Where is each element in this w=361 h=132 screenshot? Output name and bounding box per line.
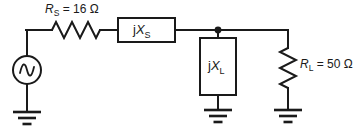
load-resistance-label: RL = 50 Ω	[300, 58, 353, 73]
ground-load	[274, 110, 302, 122]
source-resistance-symbol: R	[45, 2, 54, 16]
load-resistance-symbol: R	[300, 57, 309, 71]
load-resistance-value: 50	[327, 57, 340, 71]
resistor-zigzag-vertical	[280, 48, 296, 88]
ac-voltage-source[interactable]	[13, 30, 41, 112]
load-resistor[interactable]	[280, 48, 296, 88]
ohm-unit-icon: Ω	[344, 57, 353, 71]
circuit-diagram: RS = 16 Ω RL = 50 Ω jXS jXL	[0, 0, 361, 132]
load-resistance-equals: =	[313, 57, 327, 71]
ohm-unit-icon: Ω	[90, 2, 99, 16]
ground-shunt	[204, 110, 232, 122]
source-resistance-value: 16	[73, 2, 86, 16]
series-reactance-label: jXS	[133, 23, 151, 40]
series-reactance-subscript: S	[145, 30, 151, 40]
source-resistor[interactable]	[52, 22, 100, 38]
resistor-zigzag-horizontal	[52, 22, 100, 38]
source-resistance-label: RS = 16 Ω	[45, 3, 99, 18]
shunt-reactance-subscript: L	[220, 66, 225, 76]
series-reactance-symbol: X	[136, 22, 145, 37]
ground-source	[13, 112, 41, 124]
source-resistance-equals: =	[59, 2, 73, 16]
shunt-reactance-symbol: X	[211, 58, 220, 73]
shunt-reactance-label: jXL	[208, 59, 225, 76]
